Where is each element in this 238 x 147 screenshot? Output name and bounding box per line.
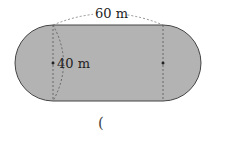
length-label: 60 m [95,6,128,21]
answer-blank-paren: ( [98,114,104,132]
stadium-diagram: 60 m 40 m ( [0,0,238,147]
right-center-dot [162,62,165,65]
left-center-dot [52,62,55,65]
stadium-shape [15,25,201,101]
diameter-label: 40 m [57,56,90,71]
